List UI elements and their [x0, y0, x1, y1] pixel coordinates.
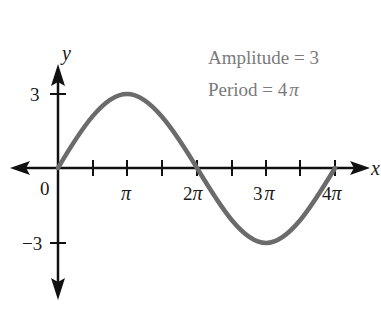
origin-label: 0	[40, 178, 50, 199]
x-tick-4pi-label: 4π	[322, 182, 343, 204]
x-tick-3pi-label: 3π	[253, 182, 276, 204]
sine-graph: y x 0 3 −3 π 2π 3π 4π Amplitude = 3 Peri…	[0, 0, 381, 324]
x-tick-pi-label: π	[121, 182, 132, 204]
x-tick-2pi-label: 2π	[183, 182, 204, 204]
x-axis-label: x	[370, 157, 380, 179]
y-tick-3-label: 3	[30, 84, 40, 105]
amplitude-annotation: Amplitude = 3	[208, 47, 319, 68]
y-tick-neg3-label: −3	[22, 233, 42, 254]
y-axis-label: y	[60, 42, 71, 65]
period-annotation: Period = 4π	[208, 79, 299, 100]
